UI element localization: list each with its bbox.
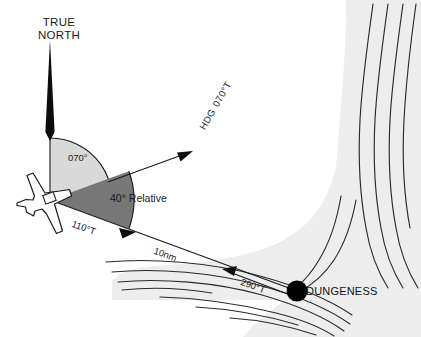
true-north-label-line2: NORTH [24, 29, 94, 42]
heading-arrowhead [177, 151, 193, 162]
relative-bearing-label: 40° Relative [110, 192, 167, 204]
land-inlet-shape [118, 222, 310, 295]
true-north-arrowhead [45, 40, 54, 141]
heading-line [108, 155, 182, 182]
true-north-label: TRUE NORTH [24, 16, 94, 42]
dungeness-marker-dot [287, 281, 308, 302]
dungeness-label: DUNGENESS [306, 285, 377, 297]
track-arrowhead [119, 228, 136, 239]
heading-arrow [108, 151, 193, 182]
true-north-label-line1: TRUE [24, 16, 94, 29]
true-bearing-label: 070° [68, 152, 88, 163]
navigation-diagram: TRUE NORTH 070° HDG 070°T 40° Relative 1… [0, 0, 421, 337]
